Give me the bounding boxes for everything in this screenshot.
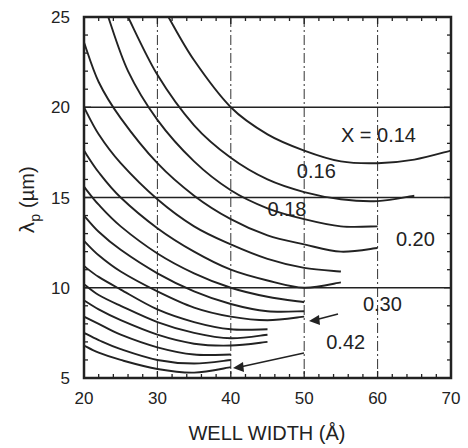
annotation-0.42: 0.42 [326, 331, 365, 353]
y-tick-labels: 510152025 [51, 8, 70, 388]
annotation-0.20: 0.20 [396, 228, 435, 250]
curve-x-0.18 [108, 17, 377, 227]
curve-x-0.22 [84, 107, 341, 271]
y-axis-label-main: λ [15, 222, 39, 234]
y-tick-20: 20 [51, 98, 70, 117]
x-tick-30: 30 [148, 389, 167, 408]
y-tick-5: 5 [61, 369, 70, 388]
annotation-0.14: X = 0.14 [341, 124, 416, 146]
x-tick-70: 70 [442, 389, 461, 408]
annotation-0.18: 0.18 [268, 198, 307, 220]
data-curves [84, 17, 451, 373]
x-axis-label: WELL WIDTH (Å) [188, 422, 345, 444]
arrows [233, 314, 338, 372]
x-tick-20: 20 [75, 389, 94, 408]
x-tick-40: 40 [221, 389, 240, 408]
svg-text:λp(µm): λp(µm) [15, 166, 43, 233]
x-tick-60: 60 [368, 389, 387, 408]
y-axis-label-unit: (µm) [16, 166, 38, 208]
chart: 203040506070 510152025 X = 0.140.160.180… [0, 0, 468, 448]
y-axis-label-sub: p [27, 214, 43, 222]
x-tick-50: 50 [295, 389, 314, 408]
arrowhead-0.30-icon [309, 315, 320, 325]
curve-x-0.32 [84, 266, 268, 330]
y-axis-label: λp(µm) [15, 166, 43, 233]
annotation-0.16: 0.16 [297, 160, 336, 182]
arrow-0.42 [240, 353, 304, 367]
arrowhead-0.42-icon [233, 362, 244, 372]
y-tick-15: 15 [51, 189, 70, 208]
y-tick-10: 10 [51, 279, 70, 298]
curve-x-0.16 [128, 17, 414, 201]
x-tick-labels: 203040506070 [75, 389, 461, 408]
annotation-0.30: 0.30 [363, 293, 402, 315]
y-tick-25: 25 [51, 8, 70, 27]
